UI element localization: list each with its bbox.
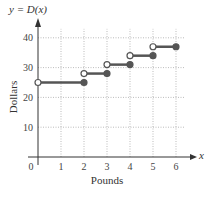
open-endpoint xyxy=(104,62,110,68)
grid-lines xyxy=(38,29,185,157)
open-endpoint xyxy=(150,44,156,50)
x-tick-label: 1 xyxy=(59,161,64,172)
step-function-chart: 012345610203040 y = D(x) Pounds Dollars … xyxy=(0,0,211,197)
x-axis-symbol: x xyxy=(198,149,204,161)
x-tick-label: 5 xyxy=(151,161,156,172)
y-tick-label: 30 xyxy=(23,62,33,73)
y-tick-label: 20 xyxy=(23,92,33,103)
y-axis-label: Dollars xyxy=(7,81,19,113)
closed-endpoint xyxy=(150,53,156,59)
axes xyxy=(28,18,197,165)
closed-endpoint xyxy=(173,44,179,50)
closed-endpoint xyxy=(127,62,133,68)
x-tick-label: 4 xyxy=(128,161,133,172)
x-tick-label: 3 xyxy=(105,161,110,172)
x-tick-label: 0 xyxy=(29,161,34,172)
closed-endpoint xyxy=(104,71,110,77)
x-axis-label: Pounds xyxy=(91,174,123,186)
y-axis-arrow-icon xyxy=(35,18,41,27)
x-tick-label: 6 xyxy=(174,161,179,172)
y-tick-label: 40 xyxy=(23,32,33,43)
x-axis-arrow-icon xyxy=(190,154,197,160)
chart-title: y = D(x) xyxy=(8,3,47,16)
open-endpoint xyxy=(127,53,133,59)
closed-endpoint xyxy=(81,80,87,86)
open-endpoint xyxy=(81,71,87,77)
x-tick-label: 2 xyxy=(82,161,87,172)
y-tick-label: 10 xyxy=(23,122,33,133)
open-endpoint xyxy=(35,80,41,86)
